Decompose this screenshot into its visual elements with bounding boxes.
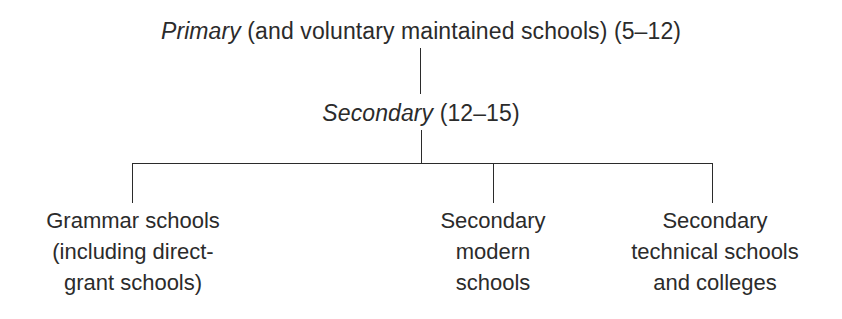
node-grammar-schools-line-3: grant schools) [2,267,264,298]
education-system-tree-diagram: Primary (and voluntary maintained school… [0,0,842,319]
node-secondary-technical-schools-line-2: technical schools [600,236,830,267]
node-secondary-technical-schools: Secondary technical schools and colleges [600,205,830,298]
node-secondary-term: Secondary [322,100,433,126]
node-primary: Primary (and voluntary maintained school… [0,16,842,46]
node-primary-term: Primary [161,18,241,44]
node-secondary-modern-schools: Secondary modern schools [400,205,586,298]
node-secondary: Secondary (12–15) [0,98,842,128]
node-secondary-modern-schools-line-2: modern [400,236,586,267]
node-secondary-detail: (12–15) [433,100,519,126]
node-grammar-schools: Grammar schools (including direct- grant… [2,205,264,298]
node-grammar-schools-line-1: Grammar schools [2,205,264,236]
node-primary-detail: (and voluntary maintained schools) (5–12… [241,18,681,44]
node-secondary-modern-schools-line-3: schools [400,267,586,298]
node-grammar-schools-line-2: (including direct- [2,236,264,267]
node-secondary-technical-schools-line-3: and colleges [600,267,830,298]
node-secondary-technical-schools-line-1: Secondary [600,205,830,236]
node-secondary-modern-schools-line-1: Secondary [400,205,586,236]
